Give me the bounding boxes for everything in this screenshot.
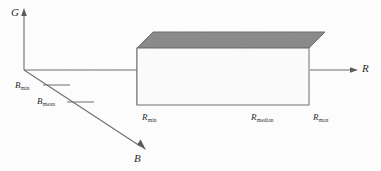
b-tick-mean-sub: mean [43,101,55,107]
cuboid-top-face [137,32,325,48]
r-axis-label: R [362,62,369,74]
r-axis-arrowhead [350,67,358,73]
b-axis-line [24,70,140,146]
g-axis-arrowhead [21,8,27,16]
r-tick-min-base: R [142,112,148,122]
figure-canvas: G R B Bmin Bmean Rmin Rmedian Rmax [0,0,381,171]
b-axis [24,70,146,150]
b-tick-label-mean: Bmean [37,96,55,106]
b-axis-label: B [134,152,141,164]
cuboid-front-face [137,48,309,105]
g-axis-label: G [11,6,19,18]
g-axis [21,8,27,70]
b-tick-min-sub: min [21,85,30,91]
r-tick-label-max: Rmax [313,112,328,122]
r-tick-max-base: R [313,112,319,122]
r-tick-median-sub: median [257,117,274,123]
r-tick-median-base: R [251,112,257,122]
r-tick-min-sub: min [148,117,157,123]
r-tick-label-median: Rmedian [251,112,273,122]
cuboid-region [137,32,325,105]
b-tick-label-min: Bmin [15,80,29,90]
diagram-svg [0,0,381,171]
b-axis-arrowhead [137,140,146,150]
b-tick-min-base: B [15,80,21,90]
r-tick-label-min: Rmin [142,112,156,122]
b-tick-mean-base: B [37,96,43,106]
r-tick-max-sub: max [319,117,329,123]
